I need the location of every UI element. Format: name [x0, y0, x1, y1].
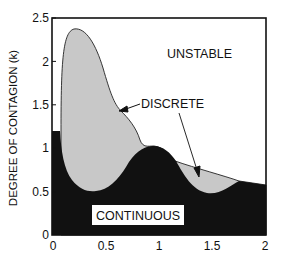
x-tick-0.5: 0.5 [98, 239, 115, 253]
x-tick-1.5: 1.5 [204, 239, 221, 253]
y-tick-labels: 2.5 2 1.5 1 0.5 0 [32, 11, 49, 242]
x-tick-0: 0 [50, 239, 57, 253]
y-tick-0.5: 0.5 [32, 185, 49, 199]
continuous-label: CONTINUOUS [96, 209, 180, 223]
y-tick-0: 0 [42, 228, 49, 242]
y-axis-label: DEGREE OF CONTAGION (k) [7, 50, 19, 206]
y-tick-1: 1 [42, 141, 49, 155]
y-tick-1.5: 1.5 [32, 98, 49, 112]
x-tick-labels: 0 0.5 1 1.5 2 [50, 239, 269, 253]
y-tick-2.5: 2.5 [32, 11, 49, 25]
contagion-chart: 2.5 2 1.5 1 0.5 0 0 0.5 1 1.5 2 DEGREE O… [0, 0, 281, 267]
x-tick-2: 2 [262, 239, 269, 253]
discrete-label: DISCRETE [141, 97, 204, 111]
unstable-label: UNSTABLE [167, 47, 232, 61]
y-tick-2: 2 [42, 55, 49, 69]
x-tick-1: 1 [156, 239, 163, 253]
